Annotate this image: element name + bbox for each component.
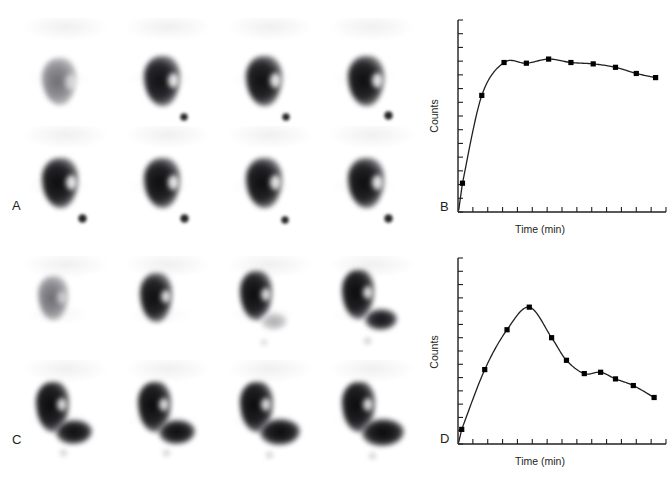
panel-letter-a: A <box>12 198 21 213</box>
renal-hilum <box>57 291 67 304</box>
data-point-marker <box>613 376 618 381</box>
ureter-activity <box>259 338 269 347</box>
scintigram-frame <box>220 256 320 362</box>
data-point-marker <box>479 93 484 98</box>
y-axis-label: Counts <box>428 99 440 132</box>
y-axis-label: Counts <box>428 335 440 368</box>
renal-hilum <box>168 73 179 88</box>
chart-d-svg: Time (min) Counts D <box>424 252 672 474</box>
panel-a-scintigram-grid <box>8 14 432 236</box>
renogram-curve <box>459 307 654 442</box>
panel-c-scintigram-grid <box>8 256 432 470</box>
scintigram-frame <box>118 18 218 128</box>
data-point-marker <box>527 305 532 310</box>
data-point-marker <box>459 427 464 432</box>
renal-hilum <box>270 73 281 88</box>
data-point-marker <box>591 61 596 66</box>
x-axis-ticks <box>473 439 666 444</box>
data-point-markers <box>459 305 657 432</box>
data-point-marker <box>582 371 587 376</box>
data-point-marker <box>564 358 569 363</box>
renal-hilum <box>270 175 281 190</box>
data-point-marker <box>460 181 465 186</box>
x-axis-ticks <box>473 207 666 212</box>
bladder-activity-focus <box>281 216 289 224</box>
data-point-markers <box>460 56 658 185</box>
bladder-activity-focus <box>384 111 393 120</box>
chart-b-renogram: Time (min) Counts B <box>424 12 672 240</box>
x-axis-label: Time (min) <box>515 455 565 467</box>
scintigram-frame <box>220 126 320 236</box>
renal-hilum <box>57 398 67 411</box>
bladder-activity-focus <box>180 214 189 223</box>
bladder-activity-focus <box>180 113 188 121</box>
scintigram-frame <box>16 360 116 470</box>
data-point-marker <box>652 395 657 400</box>
renogram-curve <box>459 59 656 210</box>
figure-root: A <box>0 0 672 480</box>
scintigram-frame <box>322 256 422 362</box>
panel-letter-d: D <box>440 431 449 446</box>
bladder-activity-focus <box>78 214 87 223</box>
data-point-marker <box>504 327 509 332</box>
renal-hilum <box>363 398 373 411</box>
data-point-marker <box>549 335 554 340</box>
renal-hilum <box>168 175 179 190</box>
scintigram-frame <box>322 126 422 236</box>
renal-hilum <box>65 74 77 90</box>
ureter-activity <box>362 336 373 346</box>
renal-hilum <box>161 290 171 303</box>
renal-hilum <box>363 286 373 299</box>
chart-d-axes <box>458 258 666 444</box>
data-point-marker <box>568 60 573 65</box>
panel-letter-c: C <box>12 432 21 447</box>
ureter-activity <box>367 451 378 461</box>
data-point-marker <box>653 75 658 80</box>
data-point-marker <box>524 61 529 66</box>
frame-background-noise <box>16 256 116 362</box>
data-point-marker <box>634 71 639 76</box>
ureter-activity <box>58 448 69 458</box>
renal-hilum <box>261 288 271 301</box>
scintigram-frame <box>118 256 218 362</box>
bladder-activity-focus <box>282 113 290 121</box>
scintigram-frame <box>322 360 422 470</box>
panel-letter-b: B <box>440 199 449 214</box>
scintigram-frame <box>220 360 320 470</box>
data-point-marker <box>482 367 487 372</box>
x-axis-label: Time (min) <box>515 223 565 235</box>
ureter-activity <box>161 448 172 458</box>
frame-background-noise <box>220 256 320 362</box>
chart-b-axes <box>458 20 666 212</box>
data-point-marker <box>546 56 551 61</box>
frame-background-noise <box>322 256 422 362</box>
renal-hilum <box>159 398 169 411</box>
data-point-marker <box>598 370 603 375</box>
renal-hilum <box>372 73 383 88</box>
data-point-marker <box>613 65 618 70</box>
scintigram-frame <box>16 256 116 362</box>
scintigram-frame <box>16 126 116 236</box>
chart-d-renogram: Time (min) Counts D <box>424 252 672 474</box>
data-point-marker <box>631 383 636 388</box>
scintigram-frame <box>16 18 116 128</box>
renal-hilum <box>261 398 271 411</box>
chart-b-svg: Time (min) Counts B <box>424 12 672 240</box>
ureter-activity <box>264 450 275 460</box>
scintigram-frame <box>220 18 320 128</box>
bladder-activity-focus <box>384 214 393 223</box>
renal-hilum <box>372 175 383 190</box>
scintigram-frame <box>118 360 218 470</box>
renal-hilum <box>66 175 77 190</box>
scintigram-frame <box>322 18 422 128</box>
y-axis-ticks <box>458 258 463 444</box>
data-point-marker <box>501 60 506 65</box>
scintigram-frame <box>118 126 218 236</box>
